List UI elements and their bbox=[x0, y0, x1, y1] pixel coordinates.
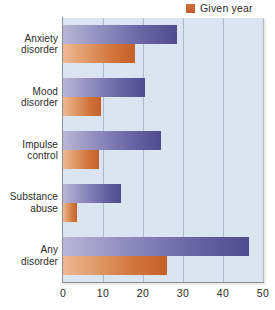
x-axis-line bbox=[62, 282, 264, 283]
bar-given-year-3 bbox=[63, 203, 77, 222]
category-label-line2: disorder bbox=[0, 44, 58, 56]
x-tick-label-10: 10 bbox=[97, 287, 109, 299]
legend-label-given-year: Given year bbox=[200, 3, 253, 14]
category-label-2: Impulsecontrol bbox=[0, 139, 58, 162]
y-axis-line bbox=[62, 17, 63, 283]
bar-lifetime-4 bbox=[63, 237, 249, 256]
bars-layer bbox=[63, 18, 263, 282]
bar-lifetime-2 bbox=[63, 131, 161, 150]
category-label-line1: Substance bbox=[0, 191, 58, 203]
category-label-line1: Impulse bbox=[0, 139, 58, 151]
bar-lifetime-3 bbox=[63, 184, 121, 203]
legend-swatch-given-year bbox=[186, 4, 195, 13]
x-axis-tick-labels: 01020304050 bbox=[0, 287, 275, 303]
category-label-1: Mooddisorder bbox=[0, 86, 58, 109]
category-label-4: Anydisorder bbox=[0, 244, 58, 267]
bar-given-year-0 bbox=[63, 44, 135, 63]
bar-lifetime-0 bbox=[63, 25, 177, 44]
category-label-line2: control bbox=[0, 150, 58, 162]
category-label-line1: Any bbox=[0, 244, 58, 256]
category-label-line1: Anxiety bbox=[0, 33, 58, 45]
bar-given-year-1 bbox=[63, 97, 101, 116]
plot-area bbox=[63, 18, 263, 282]
category-label-line1: Mood bbox=[0, 86, 58, 98]
bar-lifetime-1 bbox=[63, 78, 145, 97]
x-tick-label-40: 40 bbox=[217, 287, 229, 299]
x-tick-label-30: 30 bbox=[177, 287, 189, 299]
bar-chart: Given year AnxietydisorderMooddisorderIm… bbox=[0, 0, 275, 310]
category-label-line2: abuse bbox=[0, 203, 58, 215]
x-tick-label-50: 50 bbox=[257, 287, 269, 299]
category-axis-labels: AnxietydisorderMooddisorderImpulsecontro… bbox=[0, 18, 58, 282]
x-tick-label-0: 0 bbox=[60, 287, 66, 299]
x-tick-label-20: 20 bbox=[137, 287, 149, 299]
category-label-line2: disorder bbox=[0, 256, 58, 268]
chart-legend: Given year bbox=[186, 2, 253, 14]
category-label-0: Anxietydisorder bbox=[0, 33, 58, 56]
bar-given-year-4 bbox=[63, 256, 167, 275]
category-label-3: Substanceabuse bbox=[0, 191, 58, 214]
category-label-line2: disorder bbox=[0, 97, 58, 109]
bar-given-year-2 bbox=[63, 150, 99, 169]
